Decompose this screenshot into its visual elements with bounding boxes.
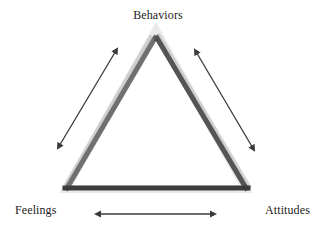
- arrow-behaviors-feelings: [58, 49, 117, 148]
- arrow-behaviors-attitudes: [195, 50, 254, 150]
- label-feelings: Feelings: [15, 203, 56, 217]
- label-attitudes: Attitudes: [265, 203, 310, 217]
- label-behaviors: Behaviors: [127, 8, 189, 22]
- diagram-canvas: [0, 0, 326, 234]
- triangle: [65, 37, 248, 188]
- behavior-triangle-diagram: Behaviors Feelings Attitudes: [0, 0, 326, 234]
- triangle-left-edge: [67, 38, 155, 188]
- triangle-shadow: [66, 30, 250, 189]
